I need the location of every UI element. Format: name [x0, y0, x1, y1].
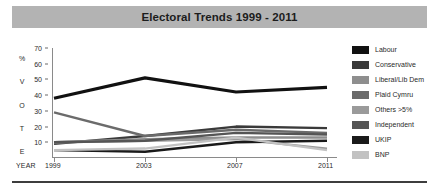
chart-page: Electoral Trends 1999 - 2011 % V O T E 1… [0, 0, 439, 188]
chart-title-bar: Electoral Trends 1999 - 2011 [12, 6, 427, 28]
x-tick-label: 2003 [136, 162, 152, 169]
legend-item[interactable]: Conservative [352, 57, 438, 72]
y-tick-mark [45, 48, 48, 49]
x-tick-label: 2007 [227, 162, 243, 169]
y-axis-title: % V O T E [16, 55, 28, 155]
y-tick-mark [45, 126, 48, 127]
bottom-divider [12, 181, 427, 183]
x-tick-label: 1999 [45, 162, 61, 169]
legend-item-label: Others >5% [375, 106, 412, 113]
legend-swatch-icon [352, 61, 369, 69]
legend-swatch-icon [352, 106, 369, 114]
y-axis-char-2: O [19, 102, 24, 109]
legend-item[interactable]: Others >5% [352, 102, 438, 117]
legend-item-label: Labour [375, 46, 397, 53]
x-tick-label: 2011 [318, 162, 333, 169]
legend-item-label: Liberal/Lib Dem [375, 76, 424, 83]
y-tick-label: 20 [34, 123, 42, 130]
page-title: Electoral Trends 1999 - 2011 [141, 11, 297, 23]
y-axis-char-1: V [20, 78, 25, 85]
legend-swatch-icon [352, 136, 369, 144]
legend-item[interactable]: Plaid Cymru [352, 87, 438, 102]
legend-item-label: UKIP [375, 136, 391, 143]
y-tick-mark [45, 63, 48, 64]
legend-item[interactable]: Liberal/Lib Dem [352, 72, 438, 87]
legend-swatch-icon [352, 91, 369, 99]
legend-item-label: Conservative [375, 61, 416, 68]
y-tick-label: 50 [34, 76, 42, 83]
series-line [54, 78, 327, 98]
y-tick-label: 70 [34, 45, 42, 52]
legend-item[interactable]: Labour [352, 42, 438, 57]
legend-swatch-icon [352, 151, 369, 159]
legend-swatch-icon [352, 76, 369, 84]
chart-legend: LabourConservativeLiberal/Lib DemPlaid C… [352, 42, 438, 162]
legend-item-label: Plaid Cymru [375, 91, 413, 98]
y-tick-label: 30 [34, 107, 42, 114]
y-tick-label: 60 [34, 60, 42, 67]
y-tick-mark [45, 110, 48, 111]
y-axis-char-0: % [19, 55, 25, 62]
x-axis-ticks: 1999200320072011 [0, 162, 345, 174]
y-tick-label: 40 [34, 92, 42, 99]
y-tick-mark [45, 95, 48, 96]
legend-item-label: BNP [375, 151, 389, 158]
legend-item-label: Independent [375, 121, 414, 128]
y-tick-mark [45, 142, 48, 143]
series-line [54, 112, 327, 136]
y-axis-char-3: T [20, 125, 24, 132]
plot-area [52, 48, 337, 158]
legend-swatch-icon [352, 46, 369, 54]
y-tick-label: 10 [34, 139, 42, 146]
legend-item[interactable]: BNP [352, 147, 438, 162]
legend-item[interactable]: UKIP [352, 132, 438, 147]
legend-item[interactable]: Independent [352, 117, 438, 132]
y-axis-ticks: 10203040506070 [30, 42, 48, 162]
series-lines [52, 48, 337, 158]
y-tick-mark [45, 79, 48, 80]
legend-swatch-icon [352, 121, 369, 129]
y-axis-char-4: E [20, 148, 25, 155]
